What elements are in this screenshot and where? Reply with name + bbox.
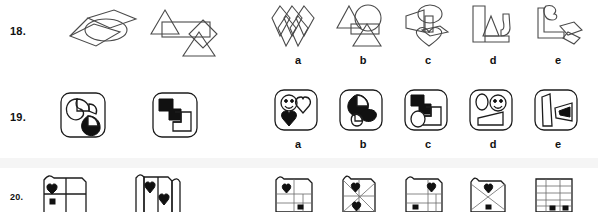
option-letter-18-c: c	[400, 54, 456, 66]
option-18-e[interactable]: e	[530, 2, 586, 50]
problem-figure-19-2	[150, 90, 202, 142]
option-letter-18-a: a	[270, 54, 326, 66]
option-letter-18-d: d	[465, 54, 521, 66]
problem-figure-20-2	[130, 170, 192, 212]
option-letter-19-a: a	[270, 138, 326, 150]
row-number-19: 19.	[10, 111, 26, 123]
option-20-b[interactable]	[335, 170, 391, 212]
option-19-c[interactable]: c	[400, 86, 456, 136]
option-19-a[interactable]: a	[270, 86, 326, 136]
option-18-d[interactable]: d	[465, 2, 521, 50]
option-18-b[interactable]: b	[335, 2, 391, 50]
option-18-c[interactable]: c	[400, 2, 456, 50]
test-page: 18.	[0, 0, 598, 212]
option-20-c[interactable]	[400, 172, 456, 212]
problem-figure-18-1	[58, 6, 148, 58]
option-20-d[interactable]	[465, 172, 521, 212]
option-19-e[interactable]: e	[530, 86, 586, 136]
question-row-18: 18.	[0, 0, 598, 80]
option-19-b[interactable]: b	[335, 86, 391, 136]
problem-figure-20-1	[40, 172, 102, 212]
question-row-20: 20.	[0, 168, 598, 212]
problem-figure-18-2	[145, 4, 241, 60]
option-letter-19-b: b	[335, 138, 391, 150]
row-number-18: 18.	[10, 25, 26, 37]
option-letter-19-c: c	[400, 138, 456, 150]
option-letter-19-d: d	[465, 138, 521, 150]
option-letter-19-e: e	[530, 138, 586, 150]
option-20-e[interactable]	[530, 172, 586, 212]
option-19-d[interactable]: d	[465, 86, 521, 136]
option-20-a[interactable]	[270, 172, 326, 212]
question-row-19: 19.	[0, 84, 598, 164]
option-letter-18-b: b	[335, 54, 391, 66]
option-letter-18-e: e	[530, 54, 586, 66]
option-18-a[interactable]: a	[270, 2, 326, 50]
problem-figure-19-1	[58, 90, 110, 142]
row-number-20: 20.	[10, 192, 23, 202]
